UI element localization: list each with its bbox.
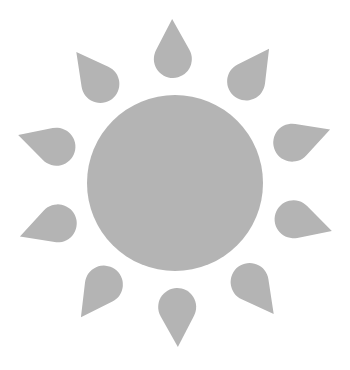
sun-illustration bbox=[0, 0, 350, 370]
sun-disc bbox=[87, 95, 263, 271]
